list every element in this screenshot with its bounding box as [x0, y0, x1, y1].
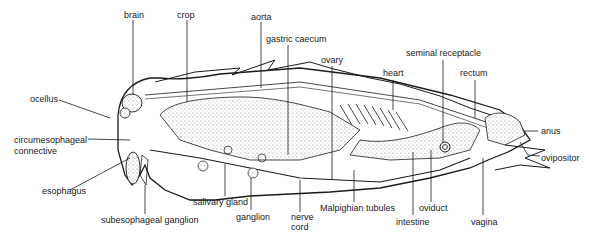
label-intestine: intestine [396, 217, 430, 227]
label-circumesophageal: circumesophageal [14, 135, 87, 145]
label-ocellus: ocellus [30, 94, 58, 104]
label-gastric-caecum: gastric caecum [266, 34, 327, 44]
label-brain: brain [124, 10, 144, 20]
rectum [485, 113, 525, 145]
label-ganglion: ganglion [236, 212, 270, 222]
label-rectum: rectum [460, 68, 488, 78]
label-crop: crop [177, 10, 195, 20]
label-malpighian-tubules: Malpighian tubules [320, 203, 395, 213]
label-connective: connective [14, 146, 57, 156]
label-ovary: ovary [321, 55, 343, 65]
label-salivary-gland: salivary gland [193, 197, 248, 207]
label-oviduct: oviduct [419, 203, 448, 213]
crop [160, 97, 360, 160]
label-cord: cord [291, 222, 309, 232]
label-anus: anus [541, 126, 561, 136]
mandible [126, 152, 140, 184]
label-seminal-receptacle: seminal receptacle [406, 48, 481, 58]
label-ovipositor: ovipositor [541, 153, 580, 163]
label-aorta: aorta [251, 12, 272, 22]
label-esophagus: esophagus [42, 186, 86, 196]
label-subesophageal-ganglion: subesophageal ganglion [101, 215, 199, 225]
label-nerve: nerve [291, 212, 314, 222]
label-heart: heart [383, 68, 404, 78]
label-vagina: vagina [471, 217, 498, 227]
intestine [350, 123, 480, 160]
